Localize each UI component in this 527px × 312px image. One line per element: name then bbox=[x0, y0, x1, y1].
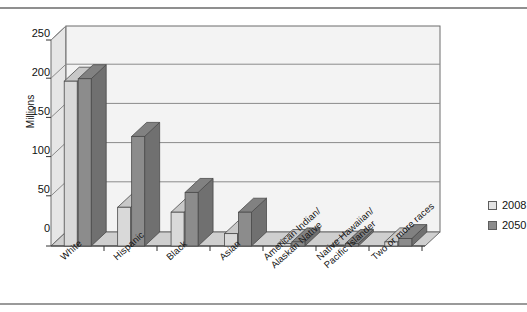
legend-label-2050: 2050 bbox=[502, 220, 526, 231]
bar-2050-1 bbox=[78, 65, 106, 246]
y-tick-marks bbox=[46, 40, 51, 246]
legend-item-2008[interactable]: 2008 bbox=[488, 200, 526, 211]
left-depth-wall bbox=[51, 26, 66, 246]
legend-swatch-2050-icon bbox=[488, 221, 497, 230]
legend-swatch-2008-icon bbox=[488, 201, 497, 210]
chart-page: 250 200 150 100 50 0 Millions bbox=[0, 0, 527, 312]
bar-chart: 250 200 150 100 50 0 Millions bbox=[12, 14, 517, 289]
bar-2050-3 bbox=[185, 178, 213, 246]
legend-item-2050[interactable]: 2050 bbox=[488, 220, 526, 231]
legend-label-2008: 2008 bbox=[502, 200, 526, 211]
top-divider-rule bbox=[0, 7, 527, 9]
legend: 2008 2050 bbox=[488, 200, 526, 240]
chart-canvas bbox=[12, 14, 517, 289]
bar-2050-2 bbox=[132, 122, 160, 246]
x-axis-labels: White Hispanic Black Asian American Indi… bbox=[12, 250, 517, 312]
